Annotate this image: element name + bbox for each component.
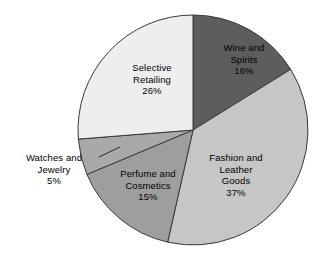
pie-label-fashion-and-leather-goods-line1: Fashion and — [196, 152, 276, 164]
pie-label-perfume-and-cosmetics: Perfume andCosmetics15% — [108, 168, 188, 203]
pie-chart-svg — [0, 0, 330, 259]
pie-label-watches-and-jewelry: Watches andJewelry5% — [11, 152, 97, 187]
pie-label-perfume-and-cosmetics-value: 15% — [108, 191, 188, 203]
pie-label-selective-retailing-line1: Selective — [116, 62, 188, 74]
pie-label-wine-and-spirits-value: 16% — [209, 65, 279, 77]
pie-label-selective-retailing-line2: Retailing — [116, 74, 188, 86]
pie-label-perfume-and-cosmetics-line1: Perfume and — [108, 168, 188, 180]
pie-label-watches-and-jewelry-line1: Watches and — [11, 152, 97, 164]
pie-label-selective-retailing-value: 26% — [116, 85, 188, 97]
pie-label-fashion-and-leather-goods: Fashion andLeatherGoods37% — [196, 152, 276, 198]
pie-label-perfume-and-cosmetics-line2: Cosmetics — [108, 180, 188, 192]
pie-label-wine-and-spirits-line1: Wine and — [209, 42, 279, 54]
pie-label-fashion-and-leather-goods-line3: Goods — [196, 175, 276, 187]
pie-label-watches-and-jewelry-line2: Jewelry — [11, 164, 97, 176]
pie-label-wine-and-spirits: Wine andSpirits16% — [209, 42, 279, 77]
pie-chart: Wine andSpirits16%Fashion andLeatherGood… — [0, 0, 330, 259]
pie-label-fashion-and-leather-goods-value: 37% — [196, 187, 276, 199]
pie-label-selective-retailing: SelectiveRetailing26% — [116, 62, 188, 97]
pie-label-watches-and-jewelry-value: 5% — [11, 175, 97, 187]
pie-label-fashion-and-leather-goods-line2: Leather — [196, 164, 276, 176]
pie-label-wine-and-spirits-line2: Spirits — [209, 54, 279, 66]
